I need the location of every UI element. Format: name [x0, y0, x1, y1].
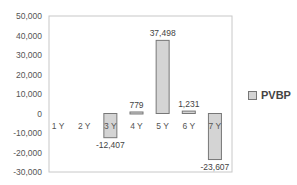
- y-tick-label: -10,000: [13, 128, 42, 138]
- plot-area: [49, 16, 232, 172]
- x-category-label: 1 Y: [52, 121, 65, 131]
- y-tick-label: -30,000: [13, 167, 42, 177]
- y-tick-label: 30,000: [16, 50, 42, 60]
- x-category-label: 3 Y: [104, 121, 117, 131]
- data-label: 37,498: [150, 28, 176, 38]
- y-tick-label: 20,000: [16, 70, 42, 80]
- y-axis: 50,00040,00030,00020,00010,0000-10,000-2…: [13, 11, 42, 177]
- x-category-label: 5 Y: [156, 121, 169, 131]
- bar-4y: [130, 112, 143, 114]
- x-category-label: 4 Y: [130, 121, 143, 131]
- y-tick-label: 50,000: [16, 11, 42, 21]
- y-tick-label: -20,000: [13, 148, 42, 158]
- y-tick-label: 0: [37, 109, 42, 119]
- legend-label-pvbp: PVBP: [261, 89, 291, 101]
- bar-6y: [182, 111, 195, 113]
- data-label: 779: [129, 100, 143, 110]
- x-category-label: 2 Y: [78, 121, 91, 131]
- y-tick-label: 40,000: [16, 31, 42, 41]
- bar-5y: [156, 40, 169, 113]
- x-category-label: 6 Y: [182, 121, 195, 131]
- data-label: -23,607: [201, 162, 230, 172]
- legend-swatch-icon: [248, 91, 257, 100]
- y-tick-label: 10,000: [16, 89, 42, 99]
- legend: PVBP: [248, 89, 291, 101]
- data-label: 1,231: [178, 99, 200, 109]
- x-category-label: 7 Y: [209, 121, 222, 131]
- data-label: -12,407: [96, 140, 125, 150]
